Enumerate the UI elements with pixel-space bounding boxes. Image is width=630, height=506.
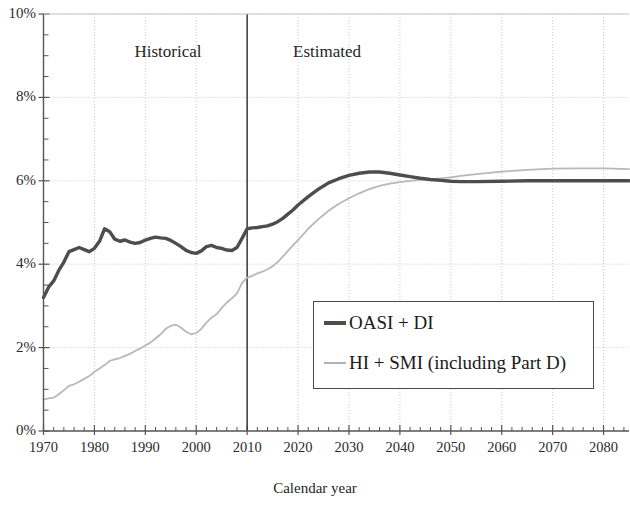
legend-item-oasi-di: OASI + DI: [324, 312, 434, 334]
historical-period-label: Historical: [108, 42, 228, 62]
chart-legend: OASI + DI HI + SMI (including Part D): [313, 301, 594, 389]
y-tick-label: 8%: [2, 88, 36, 105]
chart-plot-area: [0, 0, 630, 506]
x-tick-label: 2060: [476, 439, 528, 456]
y-tick-label: 2%: [2, 339, 36, 356]
x-tick-label: 1980: [68, 439, 120, 456]
x-tick-label: 2050: [425, 439, 477, 456]
x-axis-title: Calendar year: [0, 480, 630, 497]
x-tick-label: 2020: [272, 439, 324, 456]
x-tick-label: 1990: [119, 439, 171, 456]
legend-swatch-light-line-icon: [324, 362, 346, 364]
y-tick-label: 0%: [2, 422, 36, 439]
legend-label-oasi-di: OASI + DI: [349, 312, 434, 334]
x-tick-label: 2000: [170, 439, 222, 456]
x-tick-label: 2070: [527, 439, 579, 456]
estimated-period-label: Estimated: [247, 42, 407, 62]
legend-swatch-dark-line-icon: [324, 321, 346, 324]
legend-item-hi-smi: HI + SMI (including Part D): [324, 352, 566, 374]
x-tick-label: 2040: [374, 439, 426, 456]
x-tick-label: 2080: [578, 439, 630, 456]
x-tick-label: 2030: [323, 439, 375, 456]
y-tick-label: 10%: [2, 5, 36, 22]
y-tick-label: 4%: [2, 255, 36, 272]
legend-label-hi-smi: HI + SMI (including Part D): [349, 352, 566, 374]
x-tick-label: 2010: [221, 439, 273, 456]
x-tick-label: 1970: [18, 439, 70, 456]
y-tick-label: 6%: [2, 172, 36, 189]
chart-container: 0%2%4%6%8%10% 19701980199020002010202020…: [0, 0, 630, 506]
